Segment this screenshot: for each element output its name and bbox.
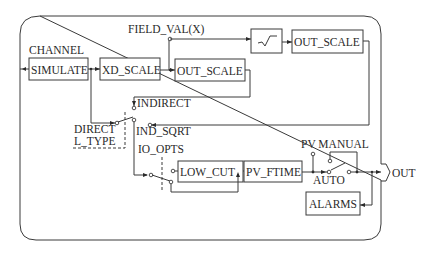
simulate-to-xdscale-wire [88,67,100,71]
direct-label: DIRECT [74,123,116,135]
low-cut-label: LOW_CUT [180,166,235,178]
sqrt-to-outscale2-wire [282,40,292,44]
alarms-block[interactable]: ALARMS [306,192,360,215]
indirect-node [132,106,136,110]
simulate-label: SIMULATE [31,64,88,76]
channel-input-arrow [20,67,29,71]
io-opts-bypass-node [169,180,173,184]
out-scale-1-label: OUT_SCALE [177,65,243,77]
manual-contact-node [328,159,332,163]
out-scale-2-label: OUT_SCALE [294,36,360,48]
xd-scale-block[interactable]: XD_SCALE [100,58,161,80]
alarms-label: ALARMS [309,198,357,210]
function-block-diagram: CHANNEL SIMULATE XD_SCALE FIELD_VAL(X) O… [0,0,432,258]
simulate-block[interactable]: SIMULATE [29,58,88,80]
channel-label: CHANNEL [29,44,84,56]
out-label: OUT [392,167,416,179]
out-connector[interactable]: OUT [381,164,416,181]
out-scale-block-1[interactable]: OUT_SCALE [175,59,245,81]
xd-scale-label: XD_SCALE [102,64,161,76]
auto-manual-switch-arm[interactable] [331,163,345,170]
xdscale-to-outscale-wire [160,40,175,72]
pv-ftime-label: PV_FTIME [246,166,301,178]
io-opts-switch-arm[interactable] [152,175,170,181]
ind-sqrt-label: IND_SQRT [136,125,191,137]
out-connector-icon [381,164,390,181]
pv-manual-label: PV MANUAL [301,138,369,150]
pvftime-to-auto-wire [302,155,328,174]
auto-label: AUTO [313,174,345,186]
fieldval-to-sqrt-wire [170,37,251,41]
l-type-label: L_TYPE [74,135,116,147]
field-val-label: FIELD_VAL(X) [128,23,205,36]
switch-output-node [347,170,351,174]
pv-ftime-block[interactable]: PV_FTIME [244,161,302,182]
io-opts-label: IO_OPTS [138,143,184,155]
square-root-block[interactable] [251,29,282,53]
out-to-alarms-wire [360,172,372,207]
pv-manual-node [311,152,315,156]
outscale2-to-indsqrt-wire [151,41,369,127]
low-cut-block[interactable]: LOW_CUT [178,161,243,182]
switch-to-out-wire [351,170,381,174]
io-opts-lowcut-node [171,169,175,173]
indirect-label: INDIRECT [137,97,191,109]
switch-common-node [132,118,136,122]
out-scale-block-2[interactable]: OUT_SCALE [292,30,363,53]
